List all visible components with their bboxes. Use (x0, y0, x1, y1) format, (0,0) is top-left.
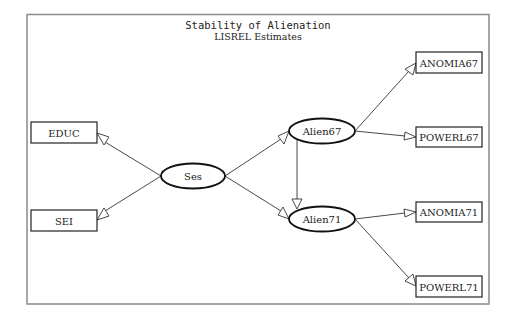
diagram-subtitle: LISREL Estimates (214, 31, 302, 42)
node-powerl71[interactable]: POWERL71 (416, 276, 482, 297)
node-alien67[interactable]: Alien67 (289, 119, 355, 144)
diagram-title: Stability of Alienation (185, 19, 330, 31)
node-label: Alien71 (302, 214, 342, 225)
node-label: POWERL71 (419, 282, 478, 293)
node-anomia71[interactable]: ANOMIA71 (416, 202, 482, 222)
node-educ[interactable]: EDUC (31, 122, 97, 143)
node-alien71[interactable]: Alien71 (289, 207, 355, 232)
node-label: Ses (184, 171, 202, 182)
node-label: POWERL67 (419, 132, 478, 143)
node-anomia67[interactable]: ANOMIA67 (416, 52, 482, 73)
node-label: Alien67 (302, 126, 342, 137)
node-sei[interactable]: SEI (31, 210, 97, 231)
node-powerl67[interactable]: POWERL67 (416, 127, 482, 147)
path-diagram: Stability of Alienation LISREL Estimates (0, 0, 512, 321)
node-label: ANOMIA67 (419, 58, 478, 69)
node-label: SEI (55, 216, 73, 227)
node-label: EDUC (48, 128, 80, 139)
node-label: ANOMIA71 (419, 207, 478, 218)
node-ses[interactable]: Ses (161, 164, 225, 189)
